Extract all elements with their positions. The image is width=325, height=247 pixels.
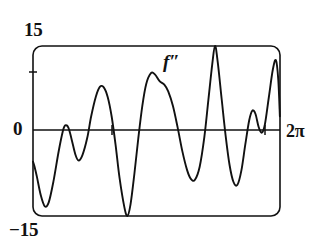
x-axis-max-label: 2π: [286, 122, 304, 140]
y-axis-max-label: 15: [24, 20, 43, 39]
y-axis-zero-label: 0: [13, 119, 22, 138]
y-axis-min-label: −15: [9, 220, 38, 239]
figure-background: [0, 0, 325, 247]
function-plot-figure: [0, 0, 325, 247]
curve-name-label: f″: [163, 52, 179, 71]
